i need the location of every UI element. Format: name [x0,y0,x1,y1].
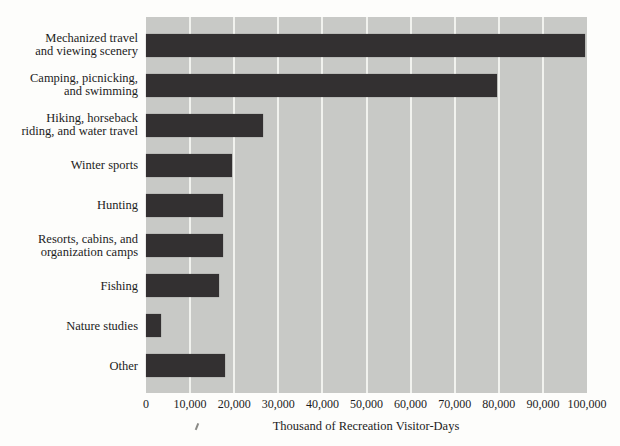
x-tick-label-0: 0 [143,397,149,412]
category-label-line: riding, and water travel [21,125,138,138]
category-label-line: and swimming [30,85,138,98]
bar-7 [146,274,219,297]
category-label-line: Winter sports [71,159,138,172]
bar-5 [146,194,223,217]
x-tick-label-20000: 20,000 [218,397,251,412]
bar-9 [146,354,225,377]
category-label-5: Hunting [97,199,138,212]
category-label-line: organization camps [38,246,138,259]
category-label-4: Winter sports [71,159,138,172]
category-label-9: Other [110,359,138,372]
bar-6 [146,234,223,257]
x-tick-label-50000: 50,000 [350,397,383,412]
bar-4 [146,154,232,177]
x-tick-label-10000: 10,000 [174,397,207,412]
category-label-3: Hiking, horsebackriding, and water trave… [21,112,138,138]
bar-1 [146,34,585,57]
x-tick-label-30000: 30,000 [262,397,295,412]
category-label-line: Hunting [97,199,138,212]
x-tick-label-90000: 90,000 [526,397,559,412]
gridline [542,17,544,393]
category-label-2: Camping, picnicking,and swimming [30,72,138,98]
stray-mark [195,423,199,430]
category-label-7: Fishing [100,279,138,292]
category-label-6: Resorts, cabins, andorganization camps [38,233,138,259]
x-axis-title: Thousand of Recreation Visitor-Days [273,419,460,434]
category-label-line: Other [110,359,138,372]
category-label-line: Nature studies [66,319,138,332]
category-label-line: Fishing [100,279,138,292]
x-tick-label-40000: 40,000 [306,397,339,412]
x-tick-label-70000: 70,000 [438,397,471,412]
category-label-8: Nature studies [66,319,138,332]
x-tick-label-100000: 100,000 [568,397,607,412]
category-label-line: and viewing scenery [35,45,138,58]
plot-area [146,17,587,393]
bar-8 [146,314,161,337]
bar-2 [146,74,497,97]
x-tick-label-60000: 60,000 [394,397,427,412]
recreation-bar-chart-figure: Mechanized traveland viewing sceneryCamp… [0,0,620,446]
gridline [498,17,500,393]
bar-3 [146,114,263,137]
x-tick-label-80000: 80,000 [482,397,515,412]
category-label-1: Mechanized traveland viewing scenery [35,32,138,58]
